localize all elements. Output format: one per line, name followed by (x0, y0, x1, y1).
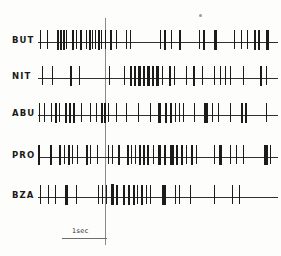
spike-tick (70, 66, 72, 86)
spike-tick (72, 30, 74, 50)
spike-tick (219, 145, 222, 165)
spike-tick (141, 185, 143, 205)
spike-tick (98, 185, 99, 204)
spike-tick (270, 145, 271, 164)
spike-tick (230, 103, 231, 122)
spike-tick (42, 66, 43, 85)
spike-tick (234, 30, 235, 49)
spike-tick (63, 30, 65, 50)
spike-tick (96, 103, 97, 122)
spike-tick (81, 103, 82, 122)
spike-tick (124, 66, 125, 85)
spike-tick (158, 145, 161, 165)
spike-tick (48, 185, 49, 204)
spike-tick (164, 30, 166, 50)
raster-track-but (38, 26, 278, 60)
spike-tick (214, 30, 217, 50)
spike-tick (186, 66, 187, 85)
spike-tick (44, 103, 45, 122)
spike-tick (143, 145, 145, 165)
spike-tick (80, 30, 82, 50)
spike-tick (90, 103, 91, 122)
spike-tick (266, 103, 267, 122)
spike-tick (126, 30, 127, 49)
spike-tick (232, 185, 233, 204)
spike-tick (147, 145, 149, 165)
spike-tick (194, 103, 195, 122)
spike-tick (109, 66, 110, 85)
spike-tick (65, 185, 68, 205)
spike-tick (150, 103, 151, 122)
spike-tick (170, 103, 172, 123)
spike-tick (68, 145, 70, 165)
spike-tick (86, 30, 87, 49)
spike-tick (169, 66, 171, 86)
spike-tick (64, 145, 65, 164)
spike-tick (130, 66, 132, 86)
spike-tick (186, 145, 187, 164)
spike-tick (76, 30, 77, 49)
spike-tick (106, 185, 107, 204)
spike-tick (90, 145, 91, 164)
spike-tick (170, 145, 174, 165)
spike-tick (89, 30, 91, 50)
spike-tick (160, 30, 161, 49)
spike-tick (266, 30, 269, 50)
spike-tick (50, 145, 52, 165)
spike-tick (258, 30, 260, 50)
spike-tick (134, 66, 136, 86)
spike-tick (97, 145, 98, 164)
spike-tick (165, 103, 167, 123)
row-label-abu: ABU (12, 108, 35, 118)
spike-tick (193, 66, 195, 86)
spike-tick (179, 185, 180, 204)
spike-tick (86, 145, 88, 165)
spike-tick (95, 30, 96, 49)
spike-tick (40, 185, 41, 204)
spike-tick (39, 103, 40, 122)
spike-tick (137, 185, 138, 204)
spike-tick (254, 30, 256, 50)
spike-tick (133, 185, 135, 205)
spike-tick (55, 103, 57, 123)
raster-track-bza (38, 181, 278, 215)
spike-tick (126, 103, 127, 122)
row-label-nit: NIT (12, 71, 31, 81)
spike-tick (116, 185, 118, 205)
ink-speck-icon (199, 14, 202, 17)
spike-tick (51, 103, 52, 122)
spike-tick (60, 30, 62, 50)
spike-tick (131, 145, 132, 164)
spike-tick (214, 66, 215, 85)
spike-tick (138, 103, 139, 122)
spike-tick (179, 103, 180, 122)
spike-tick (236, 145, 237, 164)
spike-tick (204, 103, 208, 123)
spike-tick (105, 30, 106, 49)
raster-row: NIT (0, 62, 281, 96)
spike-tick (101, 30, 102, 49)
spike-tick (116, 103, 117, 122)
spike-tick (214, 185, 215, 204)
spike-tick (52, 66, 53, 85)
spike-tick (174, 66, 175, 85)
spike-tick (243, 145, 244, 164)
raster-track-pro (38, 141, 278, 175)
baseline-but (38, 42, 278, 43)
spike-tick (101, 103, 103, 123)
spike-tick (104, 103, 106, 123)
spike-tick (147, 66, 150, 86)
spike-tick (55, 185, 56, 204)
spike-tick (260, 66, 262, 86)
row-label-but: BUT (12, 35, 34, 45)
spike-tick (158, 103, 161, 123)
spike-tick (127, 145, 129, 165)
spike-tick (196, 145, 197, 164)
spike-raster-figure: BUT NIT ABU PRO BZA 1sec (0, 0, 281, 256)
spike-tick (150, 185, 151, 204)
raster-track-nit (38, 62, 278, 96)
spike-tick (102, 185, 103, 204)
raster-row: BZA (0, 181, 281, 215)
spike-tick (118, 145, 120, 165)
spike-tick (162, 66, 163, 85)
